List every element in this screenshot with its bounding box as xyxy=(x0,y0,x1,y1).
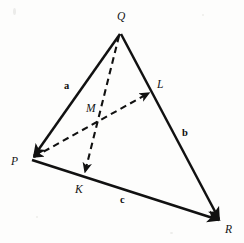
vector-label-b: b xyxy=(182,128,188,139)
geometry-diagram: Q P R L M K a b c xyxy=(0,0,244,243)
point-label-L: L xyxy=(157,79,163,91)
vector-label-a: a xyxy=(64,81,69,92)
vertex-label-R: R xyxy=(225,224,232,236)
vertex-label-Q: Q xyxy=(117,11,125,23)
point-label-K: K xyxy=(75,184,83,196)
vector-label-c: c xyxy=(120,195,125,206)
vertex-label-P: P xyxy=(11,156,18,168)
edge-b-QR xyxy=(121,34,219,219)
edge-a-QP xyxy=(34,34,120,156)
diagram-canvas xyxy=(0,0,244,243)
solid-edges-group xyxy=(32,34,219,220)
edge-c-PR xyxy=(32,160,219,220)
point-label-M: M xyxy=(86,103,96,115)
